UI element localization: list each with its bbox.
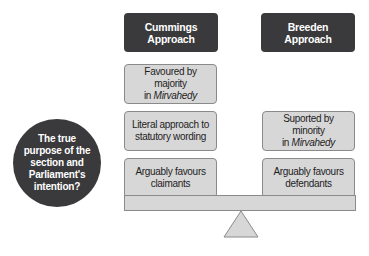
header-line: Cummings xyxy=(145,21,198,33)
header-line: Breeden xyxy=(288,21,329,33)
box-text: in xyxy=(144,90,154,101)
box-text: Arguably favours xyxy=(135,166,205,177)
box-text: claimants xyxy=(151,178,191,189)
circle-line: intention? xyxy=(34,181,80,192)
header-line: Approach xyxy=(147,33,194,45)
circle-line: section and xyxy=(30,157,83,168)
cummings-point-claimants: Arguably favoursclaimants xyxy=(124,158,217,198)
balance-beam xyxy=(124,195,356,211)
breeden-point-minority: Suported by minorityin Mirvahedy xyxy=(262,111,355,151)
fulcrum-triangle-icon xyxy=(222,210,260,240)
cummings-point-literal: Literal approach tostatutory wording xyxy=(124,111,217,151)
box-text: Favoured by majority xyxy=(144,66,196,89)
cummings-point-majority: Favoured by majorityin Mirvahedy xyxy=(124,64,217,104)
case-name: Mirvahedy xyxy=(292,137,335,148)
breeden-point-defendants: Arguably favoursdefendants xyxy=(262,158,355,198)
box-text: Literal approach to xyxy=(132,119,209,130)
purpose-question-circle: The true purpose of the section and Parl… xyxy=(13,119,101,207)
circle-line: Parliament's xyxy=(29,169,86,180)
cummings-approach-header: CummingsApproach xyxy=(124,13,218,52)
box-text: defendants xyxy=(285,178,332,189)
breeden-approach-header: BreedenApproach xyxy=(261,13,355,52)
box-text: statutory wording xyxy=(135,131,206,142)
box-text: Arguably favours xyxy=(273,166,343,177)
box-text: Suported by minority xyxy=(283,113,334,136)
circle-line: purpose of the xyxy=(24,145,91,156)
box-text: in xyxy=(282,137,292,148)
circle-line: The true xyxy=(38,133,76,144)
case-name: Mirvahedy xyxy=(154,90,197,101)
header-line: Approach xyxy=(284,33,331,45)
